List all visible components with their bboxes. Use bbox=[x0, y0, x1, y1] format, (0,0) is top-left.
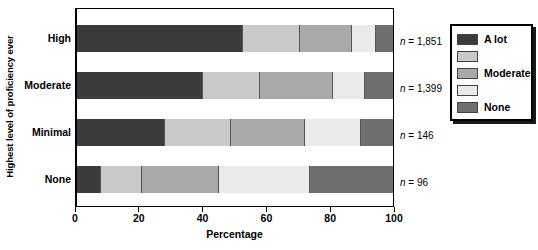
bar-segment bbox=[219, 166, 310, 193]
legend: A lotModerateNone bbox=[450, 24, 533, 121]
legend-label: Moderate bbox=[484, 67, 531, 79]
y-axis-tick-label: Minimal bbox=[16, 126, 71, 138]
bar-segment bbox=[165, 119, 230, 146]
bar-segment bbox=[142, 166, 219, 193]
sample-size-label: n = 1,851 bbox=[400, 36, 442, 48]
bar-segment bbox=[333, 72, 365, 99]
y-axis-tick-label: None bbox=[16, 173, 71, 185]
y-axis-category-labels: HighModerateMinimalNone bbox=[16, 0, 71, 212]
bar-segment bbox=[77, 72, 203, 99]
sample-size-annotations: n = 1,851n = 1,399n = 146n = 96 bbox=[400, 0, 455, 212]
legend-item[interactable]: Moderate bbox=[457, 66, 531, 80]
bar-segment bbox=[77, 119, 165, 146]
bar-segment bbox=[231, 119, 305, 146]
bar-segment bbox=[203, 72, 260, 99]
bar-row bbox=[77, 119, 393, 146]
x-axis-tick-label: 40 bbox=[197, 212, 209, 224]
x-axis-tick-label: 60 bbox=[261, 212, 273, 224]
bar-segment bbox=[365, 72, 393, 99]
plot-area bbox=[75, 8, 394, 207]
x-axis-tick-label: 100 bbox=[385, 212, 403, 224]
bar-segment bbox=[352, 25, 376, 52]
x-axis-tick-label: 0 bbox=[72, 212, 78, 224]
bar-row bbox=[77, 25, 393, 52]
bar-segment bbox=[310, 166, 393, 193]
sample-size-label: n = 96 bbox=[400, 177, 428, 189]
legend-swatch bbox=[457, 51, 478, 62]
y-axis-title-text: Highest level of proficiency ever bbox=[4, 35, 15, 177]
bar-segment bbox=[300, 25, 352, 52]
bar-segment bbox=[77, 25, 243, 52]
x-axis-tick-labels: 020406080100 bbox=[75, 212, 394, 226]
legend-swatch bbox=[457, 68, 478, 79]
legend-item[interactable]: A lot bbox=[457, 32, 507, 46]
legend-swatch bbox=[457, 34, 478, 45]
legend-swatch bbox=[457, 102, 478, 113]
bar-row bbox=[77, 166, 393, 193]
bar-row bbox=[77, 72, 393, 99]
legend-item[interactable] bbox=[457, 49, 478, 63]
bar-segment bbox=[101, 166, 143, 193]
legend-item[interactable]: None bbox=[457, 100, 510, 114]
legend-label: None bbox=[484, 101, 510, 113]
x-axis-tick-label: 80 bbox=[324, 212, 336, 224]
x-axis-title: Percentage bbox=[75, 228, 394, 240]
legend-label: A lot bbox=[484, 33, 507, 45]
legend-swatch bbox=[457, 85, 478, 96]
bar-segment bbox=[305, 119, 362, 146]
legend-item[interactable] bbox=[457, 83, 478, 97]
y-axis-tick-label: Moderate bbox=[16, 79, 71, 91]
sample-size-label: n = 146 bbox=[400, 130, 434, 142]
sample-size-label: n = 1,399 bbox=[400, 83, 442, 95]
bar-segment bbox=[376, 25, 393, 52]
bar-segment bbox=[77, 166, 101, 193]
bar-segment bbox=[243, 25, 301, 52]
x-axis-tick-label: 20 bbox=[133, 212, 145, 224]
stacked-bar-chart-figure: Highest level of proficiency ever HighMo… bbox=[0, 0, 538, 250]
bars-container bbox=[77, 9, 393, 206]
bar-segment bbox=[361, 119, 393, 146]
y-axis-tick-label: High bbox=[16, 32, 71, 44]
bar-segment bbox=[260, 72, 333, 99]
